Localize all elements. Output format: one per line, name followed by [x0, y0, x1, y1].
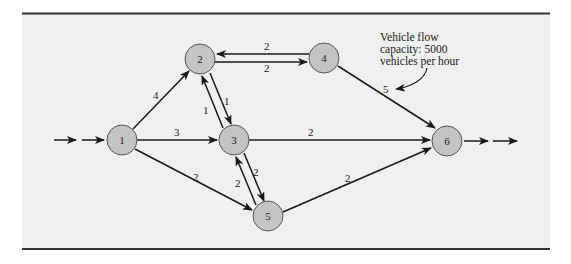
node-4-label: 4	[321, 52, 327, 64]
node-5-label: 5	[265, 210, 271, 222]
node-1: 1	[107, 125, 137, 155]
node-6-label: 6	[444, 135, 450, 147]
node-3-label: 3	[231, 134, 237, 146]
annotation-line-3: vehicles per hour	[380, 55, 459, 68]
capacity-2-3: 1	[224, 95, 230, 107]
node-2-label: 2	[197, 53, 203, 65]
node-4: 4	[309, 43, 339, 73]
capacity-3-5: 2	[253, 166, 259, 178]
node-6: 6	[432, 126, 462, 156]
capacity-5-6: 2	[345, 172, 351, 184]
capacity-4-2: 2	[264, 40, 270, 52]
capacity-5-3: 2	[235, 177, 241, 189]
capacity-3-2: 1	[203, 104, 209, 116]
node-3: 3	[219, 125, 249, 155]
capacity-1-3: 3	[174, 126, 180, 138]
node-5: 5	[253, 201, 283, 231]
node-2: 2	[185, 44, 215, 74]
capacity-3-6: 2	[308, 126, 314, 138]
diagram-panel	[22, 13, 550, 249]
node-1-label: 1	[119, 134, 125, 146]
capacity-1-2: 4	[153, 89, 159, 101]
annotation-line-1: Vehicle flow	[380, 31, 439, 43]
capacity-1-5: 2	[193, 171, 199, 183]
capacity-4-6: 5	[383, 83, 389, 95]
network-diagram: 1 2 3 4 5 6 4 3 2 1 1 2 2 2 2 2	[0, 0, 571, 264]
capacity-2-4: 2	[264, 62, 270, 74]
